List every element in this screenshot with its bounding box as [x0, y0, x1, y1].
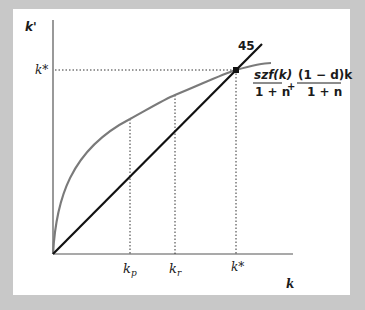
- line-45-label: 45: [238, 39, 255, 53]
- curve-formula: szf(k) 1 + n + (1 − d)k 1 + n: [253, 68, 353, 99]
- x-tick-kp: k p: [123, 261, 137, 278]
- plus-operator: +: [287, 81, 295, 92]
- y-axis-label: k': [25, 20, 37, 34]
- x-tick-kr: k r: [169, 261, 182, 278]
- steady-state-point: [233, 67, 239, 73]
- svg-text:k: k: [123, 261, 131, 276]
- accumulation-curve: [53, 63, 271, 254]
- line-45: [53, 44, 262, 254]
- svg-text:r: r: [177, 268, 182, 278]
- term2-denominator: 1 + n: [307, 85, 342, 99]
- solow-diagram: k' k k* 45 k p k r k* szf(k) 1 + n + (1 …: [0, 0, 365, 310]
- kstar-y-label: k*: [35, 63, 48, 77]
- term1-denominator: 1 + n: [255, 85, 290, 99]
- term1-numerator: szf(k): [254, 68, 292, 82]
- term2-numerator: (1 − d)k: [298, 68, 353, 82]
- x-tick-kstar: k*: [231, 260, 244, 274]
- svg-text:p: p: [131, 268, 137, 278]
- x-axis-label: k: [286, 277, 294, 291]
- svg-text:k: k: [169, 261, 177, 276]
